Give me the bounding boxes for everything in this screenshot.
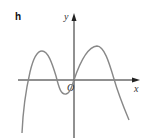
function-graph: h x y O — [0, 0, 146, 140]
y-axis-arrow-icon — [72, 13, 77, 21]
panel-label: h — [15, 11, 21, 22]
y-axis-label: y — [63, 11, 69, 22]
x-axis-label: x — [133, 83, 139, 94]
x-axis-arrow-icon — [132, 78, 140, 83]
function-curve — [22, 46, 129, 133]
